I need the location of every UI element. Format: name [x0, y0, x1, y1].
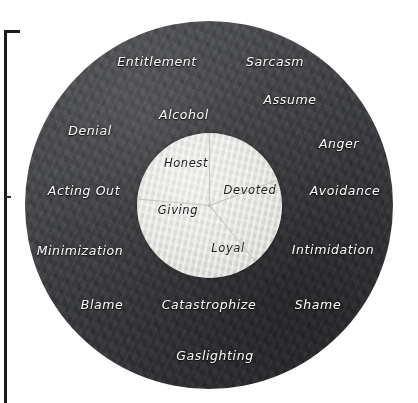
- inner-label-loyal[interactable]: Loyal: [211, 241, 245, 255]
- outer-label-alcohol[interactable]: Alcohol: [159, 107, 209, 122]
- outer-label-blame[interactable]: Blame: [81, 297, 124, 312]
- inner-label-honest[interactable]: Honest: [164, 156, 208, 170]
- inner-label-devoted[interactable]: Devoted: [224, 183, 277, 197]
- outer-label-shame[interactable]: Shame: [295, 297, 341, 312]
- outer-label-anger[interactable]: Anger: [319, 136, 359, 151]
- frame-left-line: [4, 30, 7, 403]
- diagram-canvas: Entitlement Sarcasm Assume Alcohol Denia…: [0, 0, 418, 403]
- outer-label-catastrophize[interactable]: Catastrophize: [162, 297, 257, 312]
- outer-label-avoidance[interactable]: Avoidance: [310, 183, 381, 198]
- outer-label-denial[interactable]: Denial: [68, 123, 111, 138]
- outer-label-intimidation[interactable]: Intimidation: [292, 242, 374, 257]
- outer-label-gaslighting[interactable]: Gaslighting: [176, 348, 254, 363]
- outer-label-assume[interactable]: Assume: [264, 92, 317, 107]
- outer-label-sarcasm[interactable]: Sarcasm: [246, 54, 304, 69]
- inner-label-giving[interactable]: Giving: [158, 203, 198, 217]
- outer-label-entitlement[interactable]: Entitlement: [117, 54, 197, 69]
- frame-tick-mark: [4, 196, 11, 198]
- outer-label-minimization[interactable]: Minimization: [37, 243, 124, 258]
- outer-label-acting-out[interactable]: Acting Out: [48, 183, 120, 198]
